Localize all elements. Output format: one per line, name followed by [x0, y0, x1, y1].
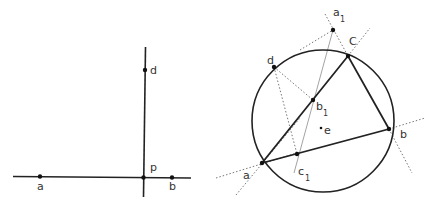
label-d: d [267, 54, 274, 67]
point-c [346, 54, 350, 58]
point-b [387, 127, 391, 131]
circumcircle [252, 50, 394, 192]
label-a1: a [333, 6, 340, 19]
label-b1: b [316, 100, 323, 113]
label-a1-sub: 1 [340, 15, 345, 24]
point-a1 [331, 28, 335, 32]
label-e: e [324, 124, 331, 137]
label-a: a [37, 180, 44, 193]
label-c1: c [298, 165, 304, 178]
left-figure: a p b d [13, 47, 191, 197]
geometry-diagrams: a p b d a b [0, 0, 434, 207]
label-b: b [400, 128, 407, 141]
point-a [260, 161, 264, 165]
point-c1 [295, 152, 299, 156]
label-d: d [150, 64, 157, 77]
point-e [320, 127, 323, 130]
point-b1 [311, 98, 315, 102]
label-p: p [150, 161, 157, 174]
label-b1-sub: 1 [323, 109, 328, 118]
right-figure: a b C d e a 1 b 1 c 1 [216, 6, 425, 195]
label-c: C [349, 35, 357, 48]
label-a: a [243, 169, 250, 182]
point-p [141, 175, 145, 179]
label-b: b [169, 180, 176, 193]
label-c1-sub: 1 [305, 174, 310, 183]
point-d [143, 68, 147, 72]
point-a [38, 174, 42, 178]
